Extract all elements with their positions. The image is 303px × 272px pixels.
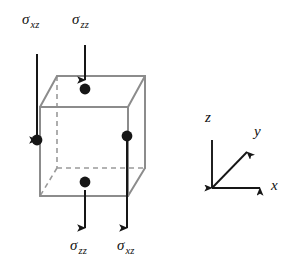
- sigma-symbol: σ: [117, 237, 124, 253]
- dot-right-face: [122, 131, 133, 142]
- dot-top-face: [80, 84, 91, 95]
- sigma-subscript: zz: [80, 19, 89, 30]
- dot-left-face: [32, 135, 43, 146]
- axis-label-z: z: [205, 110, 211, 125]
- sigma-subscript: xz: [125, 245, 134, 256]
- sigma-symbol: σ: [70, 237, 77, 253]
- sigma-subscript: xz: [30, 19, 39, 30]
- stress-label-sigma-xz-top-left: σxz: [22, 12, 39, 27]
- cube-edge-top-right-diagonal: [128, 76, 145, 107]
- axis-label-y: y: [254, 124, 261, 139]
- stress-element-figure: σxz σzz σzz σxz z y x: [0, 0, 303, 272]
- stress-label-sigma-zz-top-middle: σzz: [72, 12, 88, 27]
- stress-label-sigma-zz-bottom-left: σzz: [70, 238, 86, 253]
- stress-application-dots: [32, 84, 133, 188]
- sigma-symbol: σ: [72, 11, 79, 27]
- coordinate-axes: [212, 140, 260, 188]
- cube-edge-bottom-right-diagonal: [128, 168, 145, 196]
- cube-edge-top-left-diagonal: [40, 76, 57, 107]
- sigma-symbol: σ: [22, 11, 29, 27]
- stress-label-sigma-xz-bottom-right: σxz: [117, 238, 134, 253]
- stress-arrows: [37, 45, 127, 228]
- axis-line-y: [212, 152, 247, 188]
- cube-hidden-edge-diagonal: [40, 168, 57, 196]
- axis-label-x: x: [271, 178, 278, 193]
- sigma-subscript: zz: [78, 245, 87, 256]
- dot-bottom-face: [80, 177, 91, 188]
